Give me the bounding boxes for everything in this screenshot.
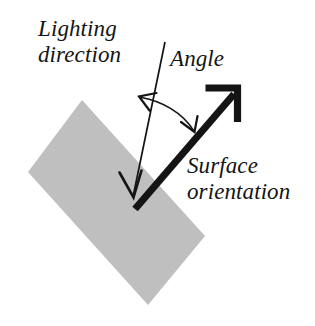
label-surface-orientation-line2: orientation — [187, 179, 290, 205]
label-angle: Angle — [170, 46, 224, 72]
label-surface-orientation: Surface orientation — [187, 153, 290, 205]
surface-patch — [28, 100, 205, 305]
label-lighting-direction: Lighting direction — [38, 16, 121, 68]
diagram-canvas: Lighting direction Angle Surface orienta… — [0, 0, 315, 326]
label-surface-orientation-line1: Surface — [187, 153, 290, 179]
label-lighting-direction-line2: direction — [38, 42, 121, 68]
label-lighting-direction-line1: Lighting — [38, 16, 121, 42]
